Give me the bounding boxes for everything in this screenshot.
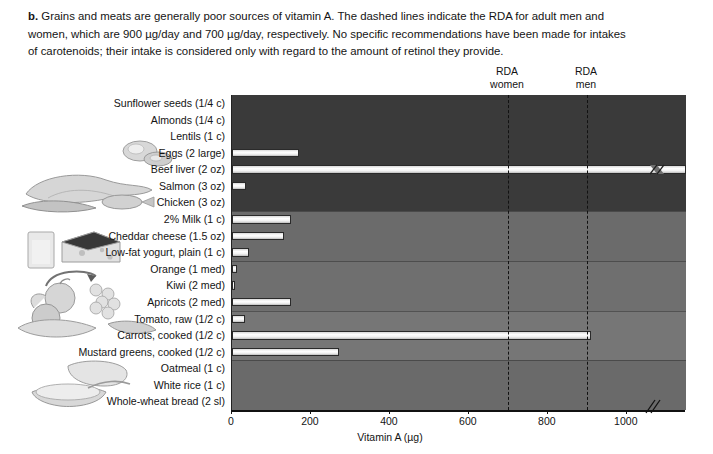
bar-carrots-cooked-1-2-c bbox=[232, 331, 591, 340]
bar-salmon-3-oz bbox=[232, 182, 246, 191]
y-axis-label: Chicken (3 oz) bbox=[157, 194, 225, 212]
x-tick bbox=[310, 410, 311, 414]
group-separator bbox=[232, 261, 686, 262]
y-axis-label: Kiwi (2 med) bbox=[166, 277, 225, 295]
x-tick-label: 800 bbox=[524, 415, 570, 427]
y-axis-labels: Sunflower seeds (1/4 c)Almonds (1/4 c)Le… bbox=[60, 95, 229, 410]
y-axis-label: White rice (1 c) bbox=[154, 377, 225, 395]
bar-mustard-greens-cooked-1-2-c bbox=[232, 348, 339, 357]
y-axis-label: Eggs (2 large) bbox=[158, 145, 225, 163]
food-group-band-protein bbox=[232, 95, 686, 211]
x-tick bbox=[468, 410, 469, 414]
x-tick-label: 200 bbox=[287, 415, 333, 427]
bar-2-milk-1-c bbox=[232, 215, 291, 224]
reference-line-rda-women bbox=[508, 95, 509, 410]
x-tick bbox=[231, 410, 232, 414]
y-axis-label: Almonds (1/4 c) bbox=[151, 112, 225, 130]
y-axis-label: Carrots, cooked (1/2 c) bbox=[117, 327, 225, 345]
bar-eggs-2-large bbox=[232, 149, 299, 158]
rda-women-line1: RDA bbox=[477, 65, 537, 78]
x-axis-break-icon bbox=[643, 399, 663, 415]
x-tick bbox=[547, 410, 548, 414]
bar-low-fat-yogurt-plain-1-c bbox=[232, 248, 249, 257]
x-axis-line bbox=[231, 410, 685, 412]
rda-men-line2: men bbox=[556, 78, 616, 91]
x-tick-label: 400 bbox=[366, 415, 412, 427]
rda-men-annotation: RDA men bbox=[556, 65, 616, 90]
y-axis-label: Lentils (1 c) bbox=[170, 128, 225, 146]
x-axis-title: Vitamin A (µg) bbox=[300, 431, 480, 443]
group-separator bbox=[232, 360, 686, 361]
y-axis-label: Cheddar cheese (1.5 oz) bbox=[108, 228, 225, 246]
group-separator bbox=[232, 211, 686, 212]
caption-label: b. bbox=[28, 10, 38, 22]
food-group-band-dairy bbox=[232, 211, 686, 261]
y-axis-label: Orange (1 med) bbox=[150, 261, 225, 279]
y-axis-label: Salmon (3 oz) bbox=[159, 178, 225, 196]
rda-women-annotation: RDA women bbox=[477, 65, 537, 90]
x-tick-label: 0 bbox=[208, 415, 254, 427]
y-axis-label: Sunflower seeds (1/4 c) bbox=[114, 95, 225, 113]
y-axis-label: Apricots (2 med) bbox=[147, 294, 225, 312]
y-axis-label: 2% Milk (1 c) bbox=[164, 211, 225, 229]
y-axis-label: Mustard greens, cooked (1/2 c) bbox=[78, 344, 225, 362]
food-group-band-grains bbox=[232, 360, 686, 410]
y-axis-label: Oatmeal (1 c) bbox=[161, 360, 225, 378]
bar-tomato-raw-1-2-c bbox=[232, 315, 245, 324]
x-tick bbox=[389, 410, 390, 414]
rda-men-line1: RDA bbox=[556, 65, 616, 78]
bar-apricots-2-med bbox=[232, 298, 291, 307]
y-axis-label: Beef liver (2 oz) bbox=[151, 161, 225, 179]
bar-cheddar-cheese-1-5-oz bbox=[232, 232, 284, 241]
bar-kiwi-2-med bbox=[232, 281, 235, 290]
reference-line-rda-men bbox=[587, 95, 588, 410]
y-axis-label: Low-fat yogurt, plain (1 c) bbox=[105, 244, 225, 262]
chart-plot-area bbox=[231, 95, 686, 410]
caption-text: Grains and meats are generally poor sour… bbox=[28, 10, 626, 57]
bar-beef-liver-2-oz bbox=[232, 165, 686, 174]
y-axis-label: Whole-wheat bread (2 sl) bbox=[107, 393, 225, 411]
figure-caption: b. Grains and meats are generally poor s… bbox=[28, 8, 628, 61]
food-group-band-fruits bbox=[232, 261, 686, 311]
group-separator bbox=[232, 311, 686, 312]
bar-orange-1-med bbox=[232, 265, 237, 274]
rda-women-line2: women bbox=[477, 78, 537, 91]
x-tick-label: 1000 bbox=[603, 415, 649, 427]
y-axis-label: Tomato, raw (1/2 c) bbox=[134, 311, 225, 329]
x-tick bbox=[626, 410, 627, 414]
x-tick-label: 600 bbox=[445, 415, 491, 427]
